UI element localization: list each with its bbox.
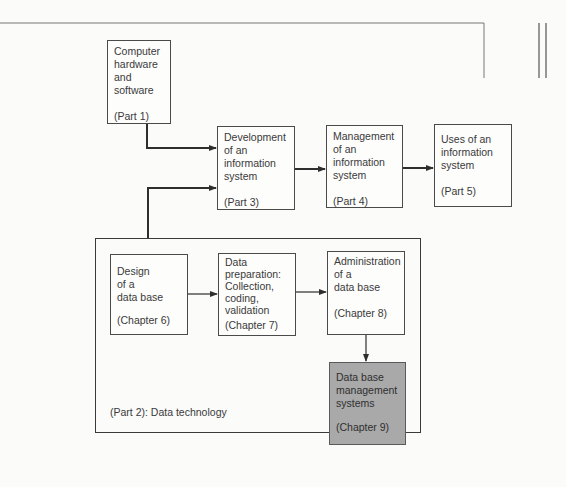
node-dbms: Data base management systems (Chapter 9) <box>329 362 406 445</box>
node-ref: (Chapter 7) <box>225 319 289 331</box>
arrow-hw-to-dev <box>147 123 216 148</box>
node-uses: Uses of an information system (Part 5) <box>434 124 512 207</box>
arrow-part2-to-dev <box>148 188 216 238</box>
node-label: Uses of an information system <box>441 133 505 172</box>
node-development: Development of an information system (Pa… <box>217 126 295 210</box>
node-ref: (Chapter 6) <box>117 314 181 327</box>
node-ref: (Part 4) <box>333 195 396 208</box>
node-label: Computer hardware and software <box>114 45 164 97</box>
node-label: Design of a data base <box>117 265 181 304</box>
node-ref: (Chapter 9) <box>336 421 399 434</box>
page-rule <box>0 23 484 78</box>
node-label: Administration of a data base <box>334 255 398 294</box>
node-ref: (Chapter 8) <box>334 307 398 320</box>
node-computer-hardware: Computer hardware and software (Part 1) <box>107 40 171 124</box>
node-label: Data preparation: Collection, coding, va… <box>225 256 289 316</box>
node-ref: (Part 1) <box>114 110 164 123</box>
node-administration: Administration of a data base (Chapter 8… <box>327 251 405 335</box>
node-ref: (Part 5) <box>441 185 505 198</box>
node-label: Management of an information system <box>333 130 396 182</box>
node-label: Data base management systems <box>336 371 399 410</box>
node-management: Management of an information system (Par… <box>326 125 403 208</box>
node-ref: (Part 3) <box>224 196 288 209</box>
node-label: Development of an information system <box>224 131 288 183</box>
group-label: (Part 2): Data technology <box>110 406 227 418</box>
node-design: Design of a data base (Chapter 6) <box>110 254 188 335</box>
node-data-preparation: Data preparation: Collection, coding, va… <box>218 253 296 336</box>
